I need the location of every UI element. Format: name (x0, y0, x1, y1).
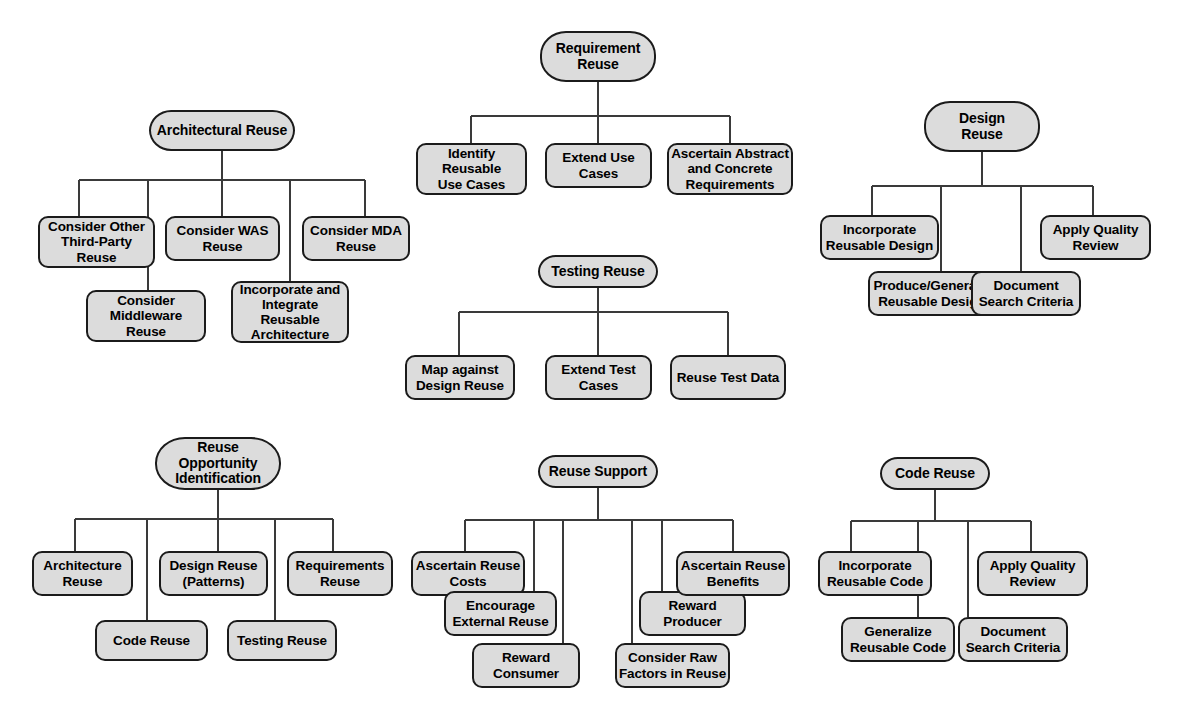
node-document-search-criteria[interactable]: Document Search Criteria (971, 271, 1081, 316)
root-requirement-reuse[interactable]: Requirement Reuse (540, 31, 656, 82)
node-consider-raw-factors-in-reuse[interactable]: Consider Raw Factors in Reuse (615, 643, 730, 688)
node-ascertain-reuse-benefits[interactable]: Ascertain Reuse Benefits (676, 551, 790, 596)
node-reward-consumer[interactable]: Reward Consumer (472, 643, 580, 688)
node-document-search-criteria-code[interactable]: Document Search Criteria (958, 617, 1068, 662)
node-encourage-external-reuse[interactable]: Encourage External Reuse (444, 591, 557, 636)
node-ascertain-reuse-costs[interactable]: Ascertain Reuse Costs (411, 551, 525, 596)
root-reuse-support[interactable]: Reuse Support (538, 455, 658, 488)
node-identify-reusable-use-cases[interactable]: Identify Reusable Use Cases (416, 143, 527, 195)
root-architectural-reuse[interactable]: Architectural Reuse (149, 110, 295, 151)
node-extend-use-cases[interactable]: Extend Use Cases (545, 143, 652, 188)
node-incorporate-reusable-code[interactable]: Incorporate Reusable Code (818, 551, 932, 596)
node-extend-test-cases[interactable]: Extend Test Cases (545, 355, 652, 400)
node-consider-mda-reuse[interactable]: Consider MDA Reuse (302, 216, 410, 261)
node-incorporate-reusable-design[interactable]: Incorporate Reusable Design (820, 215, 939, 260)
node-consider-other-third-party-reuse[interactable]: Consider Other Third-Party Reuse (38, 216, 155, 268)
node-consider-middleware-reuse[interactable]: Consider Middleware Reuse (86, 290, 206, 342)
node-ascertain-abstract-and-concrete-requirements[interactable]: Ascertain Abstract and Concrete Requirem… (667, 143, 793, 195)
node-consider-was-reuse[interactable]: Consider WAS Reuse (165, 216, 280, 261)
node-apply-quality-review[interactable]: Apply Quality Review (1040, 215, 1151, 260)
root-code-reuse[interactable]: Code Reuse (880, 457, 990, 490)
node-reuse-test-data[interactable]: Reuse Test Data (670, 355, 786, 400)
node-testing-reuse-opportunity[interactable]: Testing Reuse (227, 620, 337, 661)
node-architecture-reuse[interactable]: Architecture Reuse (32, 551, 133, 596)
node-generalize-reusable-code[interactable]: Generalize Reusable Code (841, 617, 955, 662)
node-code-reuse-opportunity[interactable]: Code Reuse (95, 620, 208, 661)
root-design-reuse[interactable]: Design Reuse (924, 101, 1040, 152)
node-reward-producer[interactable]: Reward Producer (639, 591, 746, 636)
root-testing-reuse[interactable]: Testing Reuse (538, 255, 658, 288)
node-requirements-reuse[interactable]: Requirements Reuse (287, 551, 393, 596)
root-reuse-opportunity-identification[interactable]: Reuse Opportunity Identification (155, 437, 281, 490)
node-apply-quality-review-code[interactable]: Apply Quality Review (977, 551, 1088, 596)
node-design-reuse-patterns[interactable]: Design Reuse (Patterns) (159, 551, 268, 596)
node-incorporate-integrate-reusable-architecture[interactable]: Incorporate and Integrate Reusable Archi… (231, 281, 349, 343)
node-map-against-design-reuse[interactable]: Map against Design Reuse (405, 355, 515, 400)
diagram-canvas: Architectural Reuse Consider Other Third… (0, 0, 1186, 725)
